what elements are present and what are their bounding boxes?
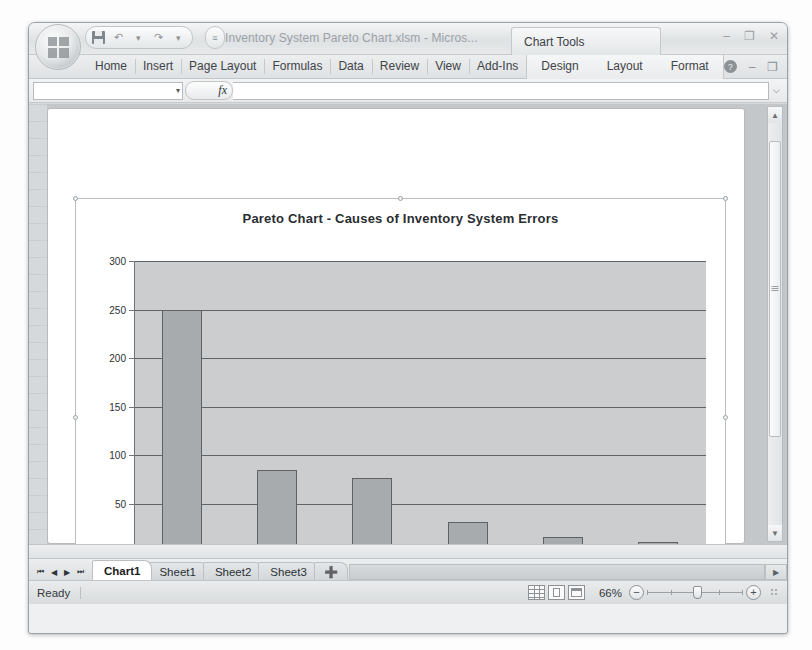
- chart-tools-contextual-label: Chart Tools: [511, 27, 661, 55]
- excel-window: ↶ ▾ ↷ ▾ ≡ Inventory System Pareto Chart.…: [28, 22, 788, 634]
- save-button[interactable]: [89, 29, 107, 46]
- y-axis-tick-label: 300: [109, 256, 126, 267]
- restore-button[interactable]: ❐: [744, 29, 755, 43]
- bar-slot: [515, 261, 610, 553]
- tab-home[interactable]: Home: [87, 56, 135, 77]
- previous-sheet-icon[interactable]: ◀: [51, 568, 57, 577]
- row-gutter: [29, 104, 47, 544]
- chart-title[interactable]: Pareto Chart - Causes of Inventory Syste…: [76, 211, 725, 226]
- tab-review[interactable]: Review: [372, 56, 427, 77]
- first-sheet-icon[interactable]: ⏮: [37, 567, 44, 577]
- minimize-ribbon-button[interactable]: –: [749, 60, 756, 74]
- quick-access-toolbar: ↶ ▾ ↷ ▾: [85, 26, 193, 49]
- screenshot-root: ↶ ▾ ↷ ▾ ≡ Inventory System Pareto Chart.…: [0, 0, 812, 650]
- undo-button[interactable]: ↶: [109, 29, 127, 46]
- chart-plot-wrapper: 300250200150100500: [134, 261, 706, 553]
- status-bar-right: 66% − +: [528, 585, 779, 600]
- sheet-nav-arrows: ⏮ ◀ ▶ ⏭: [33, 567, 92, 580]
- tab-add-ins[interactable]: Add-Ins: [469, 56, 526, 77]
- normal-view-icon[interactable]: [528, 585, 545, 600]
- office-logo-icon: [48, 37, 70, 59]
- zoom-slider-thumb[interactable]: [693, 586, 702, 599]
- formula-bar-row: ▾ fx ⌵: [29, 79, 787, 103]
- zoom-percent-label[interactable]: 66%: [592, 587, 622, 599]
- formula-input[interactable]: [233, 82, 769, 100]
- save-icon: [92, 31, 105, 44]
- horizontal-scroll-row[interactable]: [29, 544, 787, 558]
- sheet-tab-sheet2[interactable]: Sheet2: [203, 562, 263, 580]
- scroll-right-arrow-icon[interactable]: ▶: [765, 564, 787, 580]
- insert-worksheet-icon[interactable]: ➕: [314, 562, 348, 580]
- chart-tools-tab-group: Design Layout Format: [526, 55, 723, 79]
- help-icon[interactable]: ?: [724, 60, 737, 73]
- vertical-scroll-thumb[interactable]: [769, 141, 781, 437]
- bar-slot: [420, 261, 515, 553]
- zoom-track[interactable]: [647, 592, 743, 593]
- sheet-tab-sheet1[interactable]: Sheet1: [147, 562, 207, 580]
- tab-insert[interactable]: Insert: [135, 56, 181, 77]
- resize-handle-middle-right[interactable]: [723, 415, 728, 420]
- status-bar: Ready 66% −: [29, 580, 787, 604]
- resize-grip-icon[interactable]: [770, 588, 779, 597]
- resize-handle-top-middle[interactable]: [398, 196, 403, 201]
- sheet-tab-chart1[interactable]: Chart1: [92, 560, 152, 580]
- horizontal-scrollbar[interactable]: [349, 564, 765, 580]
- tab-view[interactable]: View: [427, 56, 469, 77]
- insert-function-button[interactable]: fx: [185, 81, 233, 100]
- office-button[interactable]: [35, 24, 81, 70]
- resize-handle-top-right[interactable]: [723, 196, 728, 201]
- y-axis-tick-label: 50: [115, 498, 126, 509]
- status-text: Ready: [37, 587, 81, 599]
- restore-workbook-button[interactable]: ❐: [767, 60, 778, 74]
- tab-design[interactable]: Design: [527, 56, 592, 77]
- bar[interactable]: [162, 310, 202, 553]
- y-axis-tick-label: 100: [109, 450, 126, 461]
- bar-slot: [134, 261, 229, 553]
- window-controls: – ❐ ✕: [723, 29, 779, 43]
- undo-dropdown-icon[interactable]: ▾: [129, 29, 147, 46]
- window-title: Inventory System Pareto Chart.xlsm - Mic…: [225, 31, 478, 45]
- scroll-down-arrow-icon[interactable]: ▼: [768, 525, 782, 541]
- bar[interactable]: [352, 478, 392, 553]
- title-bar: ↶ ▾ ↷ ▾ ≡ Inventory System Pareto Chart.…: [29, 23, 787, 55]
- bar-slot: [325, 261, 420, 553]
- page-layout-view-icon[interactable]: [548, 585, 565, 600]
- y-axis-tick-label: 200: [109, 353, 126, 364]
- customize-qat-icon: ≡: [212, 33, 217, 43]
- bar-series: [134, 261, 706, 553]
- chevron-down-icon[interactable]: ▾: [176, 86, 180, 95]
- redo-button[interactable]: ↷: [149, 29, 167, 46]
- vertical-scrollbar[interactable]: ▲ ▼: [767, 106, 783, 542]
- sheet-tab-sheet3[interactable]: Sheet3: [258, 562, 318, 580]
- tab-data[interactable]: Data: [330, 56, 371, 77]
- scroll-up-arrow-icon[interactable]: ▲: [768, 107, 782, 123]
- chart-sheet-area: Pareto Chart - Causes of Inventory Syste…: [29, 103, 787, 558]
- redo-dropdown-icon[interactable]: ▾: [169, 29, 187, 46]
- customize-qat-button[interactable]: ≡: [205, 26, 225, 49]
- view-buttons: [528, 585, 585, 600]
- next-sheet-icon[interactable]: ▶: [64, 568, 70, 577]
- name-box[interactable]: ▾: [33, 82, 183, 100]
- tab-formulas[interactable]: Formulas: [264, 56, 330, 77]
- resize-handle-middle-left[interactable]: [73, 415, 78, 420]
- minimize-button[interactable]: –: [723, 29, 730, 43]
- tab-format[interactable]: Format: [657, 56, 723, 77]
- page-break-preview-icon[interactable]: [568, 585, 585, 600]
- last-sheet-icon[interactable]: ⏭: [77, 567, 84, 577]
- bar[interactable]: [257, 470, 297, 553]
- zoom-slider[interactable]: − +: [629, 585, 761, 600]
- chart-object[interactable]: Pareto Chart - Causes of Inventory Syste…: [75, 198, 726, 558]
- zoom-out-button[interactable]: −: [629, 585, 644, 600]
- y-axis-tick-label: 250: [109, 304, 126, 315]
- zoom-in-button[interactable]: +: [746, 585, 761, 600]
- close-button[interactable]: ✕: [769, 29, 779, 43]
- tab-layout[interactable]: Layout: [593, 56, 657, 77]
- tab-page-layout[interactable]: Page Layout: [181, 56, 264, 77]
- expand-formula-bar-icon[interactable]: ⌵: [769, 85, 783, 96]
- ribbon-right-controls: ? – ❐ ✕: [724, 60, 788, 74]
- bar-slot: [611, 261, 706, 553]
- resize-handle-top-left[interactable]: [73, 196, 78, 201]
- fx-icon: fx: [218, 83, 227, 98]
- bar-slot: [229, 261, 324, 553]
- y-axis-tick-label: 150: [109, 401, 126, 412]
